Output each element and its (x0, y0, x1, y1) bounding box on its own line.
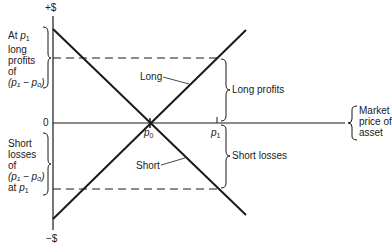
left-bottom-note-line: losses (8, 149, 45, 160)
long-profits-brace (221, 59, 230, 121)
note-text: At (8, 30, 20, 41)
left-top-note-line: of (8, 66, 45, 77)
short-leader-line (161, 158, 185, 165)
p0-sub: 0 (150, 132, 154, 139)
left-top-note-line: At p1 (8, 30, 45, 44)
x-axis-label-line: price of (359, 116, 392, 127)
note-sub: 1 (25, 187, 29, 194)
short-losses-brace (221, 125, 230, 188)
note-sub: 1 (26, 35, 30, 42)
left-bottom-note-line: at p1 (8, 182, 45, 196)
p1-label: p1 (211, 127, 220, 141)
y-axis-top-label: +$ (45, 2, 56, 13)
x-axis-label-line: asset (359, 127, 392, 138)
left-top-note-line: profits (8, 55, 45, 66)
x-axis-label: Market price of asset (359, 105, 392, 138)
p0-label: p0 (144, 127, 153, 141)
left-bottom-note-line: (p₁ − p₀) (8, 171, 45, 182)
short-losses-label: Short losses (232, 150, 287, 161)
left-top-note: At p1 long profits of (p₁ − p₀) (8, 30, 45, 88)
x-axis-label-line: Market (359, 105, 392, 116)
y-axis-bottom-label: −$ (46, 233, 57, 244)
short-line-label: Short (136, 160, 160, 171)
left-bottom-note: Short losses of (p₁ − p₀) at p1 (8, 138, 45, 196)
long-leader-line (163, 77, 189, 84)
left-bottom-note-line: Short (8, 138, 45, 149)
long-line-label: Long (140, 71, 162, 82)
origin-label: 0 (43, 117, 49, 128)
note-text: at (8, 182, 19, 193)
p1-sub: 1 (217, 132, 221, 139)
long-profits-label: Long profits (232, 84, 284, 95)
left-bottom-note-line: of (8, 160, 45, 171)
market-price-brace (348, 106, 357, 140)
left-top-note-line: long (8, 44, 45, 55)
left-top-note-line: (p₁ − p₀) (8, 77, 45, 88)
